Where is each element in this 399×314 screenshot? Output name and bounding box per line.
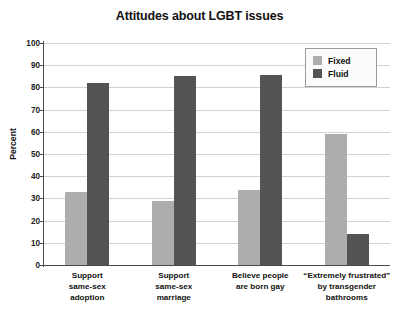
- y-axis-tick-mark: [40, 43, 43, 44]
- x-axis-line: [43, 265, 390, 266]
- bar-fixed-4: [325, 134, 347, 265]
- x-axis-label-line: marriage: [123, 292, 226, 303]
- bar-fluid-1: [87, 83, 109, 265]
- y-axis-tick-mark: [40, 221, 43, 222]
- legend-swatch-icon: [313, 56, 322, 65]
- y-axis-tick-label: 20: [2, 216, 40, 225]
- x-axis-label-line: bathrooms: [296, 292, 399, 303]
- bar-fluid-4: [347, 234, 369, 265]
- bar-fluid-2: [174, 76, 196, 265]
- legend-label: Fixed: [328, 56, 350, 66]
- y-axis-tick-mark: [40, 265, 43, 266]
- y-axis-tick-mark: [40, 110, 43, 111]
- y-axis-tick-mark: [40, 243, 43, 244]
- y-axis-tick-mark: [40, 132, 43, 133]
- y-axis-tick-label: 90: [2, 61, 40, 70]
- y-axis-tick-mark: [40, 176, 43, 177]
- y-axis-ticks: 1009080706050403020100: [0, 43, 40, 265]
- y-axis-tick-mark: [40, 65, 43, 66]
- bar-fixed-3: [238, 190, 260, 265]
- y-axis-tick-mark: [40, 87, 43, 88]
- x-axis-label-line: by transgender: [296, 281, 399, 292]
- y-axis-tick-mark: [40, 154, 43, 155]
- x-axis-labels: Supportsame-sexadoptionSupportsame-sexma…: [44, 270, 390, 314]
- legend-swatch-icon: [313, 69, 322, 78]
- y-axis-tick-label: 10: [2, 238, 40, 247]
- y-axis-label: Percent: [8, 109, 18, 179]
- y-axis-tick-label: 100: [2, 39, 40, 48]
- bar-fixed-1: [65, 192, 87, 265]
- y-axis-tick-mark: [40, 198, 43, 199]
- y-axis-tick-label: 0: [2, 261, 40, 270]
- y-axis-tick-label: 80: [2, 83, 40, 92]
- bar-chart: Attitudes about LGBT issues 100908070605…: [0, 0, 399, 314]
- bar-fixed-2: [152, 201, 174, 265]
- x-axis-label-line: “Extremely frustrated”: [296, 270, 399, 281]
- bar-fluid-3: [260, 75, 282, 265]
- chart-legend: FixedFluid: [305, 48, 377, 87]
- chart-title: Attitudes about LGBT issues: [0, 9, 399, 23]
- x-axis-category-label: “Extremely frustrated”by transgenderbath…: [296, 270, 399, 304]
- y-axis-tick-label: 30: [2, 194, 40, 203]
- legend-item-fluid[interactable]: Fluid: [313, 67, 370, 80]
- legend-label: Fluid: [328, 69, 349, 79]
- legend-item-fixed[interactable]: Fixed: [313, 54, 370, 67]
